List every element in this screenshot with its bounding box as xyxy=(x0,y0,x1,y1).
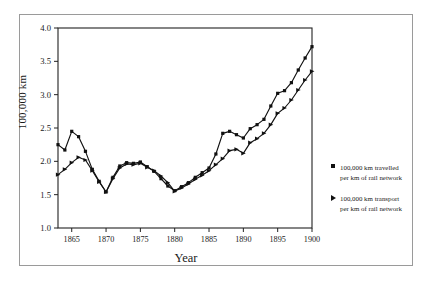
legend-label-transport: 100,000 km transport per km of rail netw… xyxy=(340,194,431,214)
chart-container: 100,000 km Year 1.01.52.02.53.03.54.0186… xyxy=(0,0,435,287)
x-tick-label: 1895 xyxy=(269,235,285,244)
y-tick-label: 1.0 xyxy=(40,223,51,233)
line-chart-plot: 1.01.52.02.53.03.54.01865187018751880188… xyxy=(0,0,435,287)
x-tick-label: 1875 xyxy=(132,235,148,244)
legend-label-travelled: 100,000 km travelled per km of rail netw… xyxy=(340,163,431,183)
x-tick-label: 1880 xyxy=(167,235,183,244)
y-tick-label: 2.0 xyxy=(40,156,51,166)
x-tick-label: 1890 xyxy=(235,235,251,244)
chart-legend: 100,000 km travelled per km of rail netw… xyxy=(331,163,431,225)
triangle-marker-icon xyxy=(331,194,340,201)
x-tick-label: 1870 xyxy=(98,235,114,244)
x-tick-label: 1900 xyxy=(304,235,320,244)
y-tick-label: 3.5 xyxy=(40,56,51,66)
square-marker-icon xyxy=(331,163,340,168)
y-tick-label: 2.5 xyxy=(40,123,51,133)
y-tick-label: 3.0 xyxy=(40,90,51,100)
legend-item-travelled: 100,000 km travelled per km of rail netw… xyxy=(331,163,431,183)
legend-item-transport: 100,000 km transport per km of rail netw… xyxy=(331,194,431,214)
y-tick-label: 4.0 xyxy=(40,23,51,33)
x-tick-label: 1885 xyxy=(201,235,217,244)
x-tick-label: 1865 xyxy=(64,235,80,244)
y-tick-label: 1.5 xyxy=(40,190,51,200)
series-transport xyxy=(56,69,315,194)
series-travelled xyxy=(56,45,313,194)
